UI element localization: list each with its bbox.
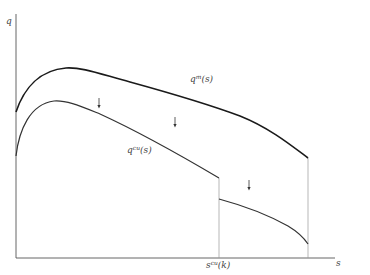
curve-qm (16, 68, 308, 158)
y-axis-label-text: q (6, 16, 12, 26)
qcu-sup: cu (133, 144, 140, 151)
x-axis-label-text: s (336, 258, 341, 268)
down-arrow-icon (247, 180, 250, 191)
x-axis-label: s (336, 259, 341, 268)
diagram-canvas (0, 0, 370, 275)
curve-qcu-right (219, 199, 308, 244)
curve-label-qcu: qcu(s) (127, 145, 152, 155)
qcu-arg: (s) (140, 145, 152, 155)
down-arrow-icon (97, 98, 100, 109)
scu-arg: (k) (218, 260, 230, 270)
y-axis-label: q (6, 17, 12, 26)
curve-label-qm: qm(s) (190, 74, 213, 84)
down-arrow-icon (173, 117, 176, 128)
curve-qcu-left (16, 101, 219, 178)
x-tick-label-scu: scu(k) (206, 260, 230, 270)
scu-sup: cu (211, 259, 218, 266)
qm-arg: (s) (201, 74, 213, 84)
